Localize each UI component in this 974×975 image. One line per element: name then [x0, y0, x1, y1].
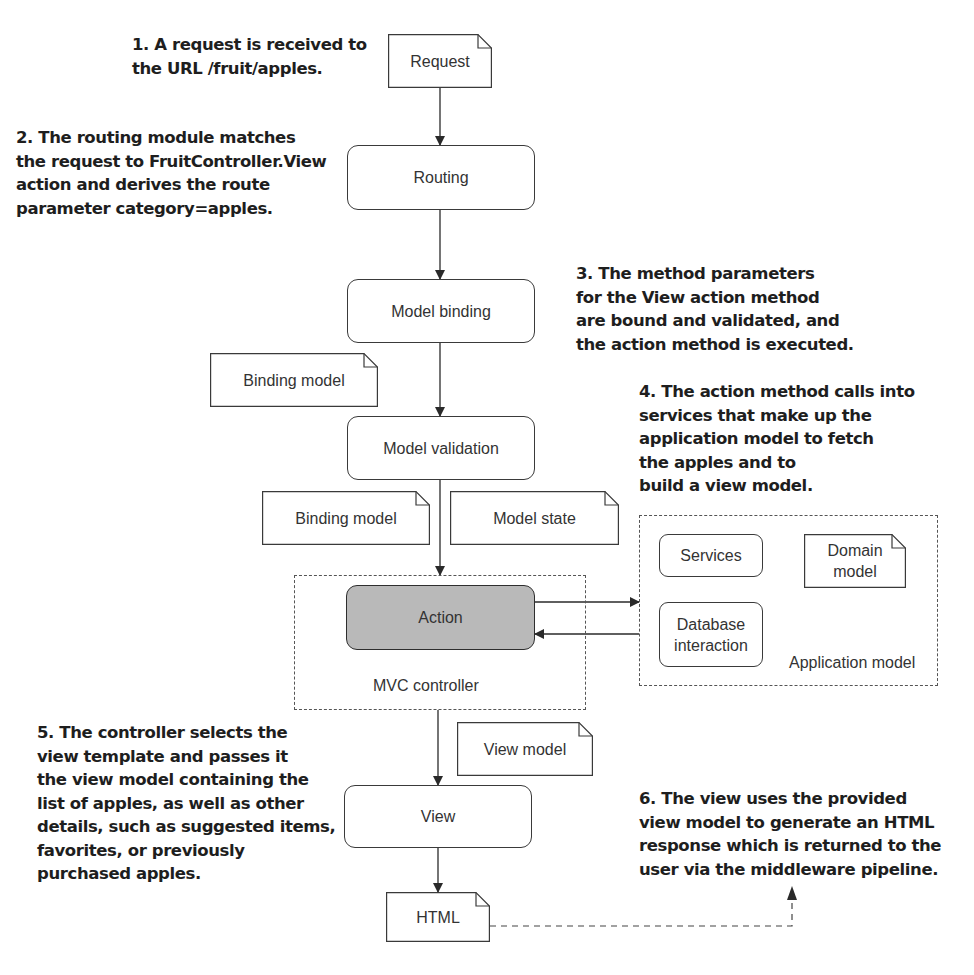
model-state-label: Model state: [493, 508, 576, 529]
model-validation-step: Model validation: [347, 416, 535, 480]
services-label: Services: [680, 545, 741, 566]
request-label: Request: [410, 51, 470, 72]
diagram-canvas: 1. A request is received to the URL /fru…: [0, 0, 974, 975]
model-binding-step: Model binding: [347, 279, 535, 343]
model-binding-label: Model binding: [391, 301, 491, 322]
database-interaction-label: Database interaction: [674, 614, 748, 656]
mvc-controller-label: MVC controller: [373, 677, 479, 695]
annotation-step-6: 6. The view uses the provided view model…: [639, 787, 941, 881]
annotation-step-1: 1. A request is received to the URL /fru…: [132, 33, 367, 80]
binding-model-document-1: Binding model: [210, 353, 378, 407]
model-state-document: Model state: [450, 491, 619, 545]
html-label: HTML: [416, 907, 460, 928]
annotation-step-4: 4. The action method calls into services…: [639, 380, 915, 498]
annotation-step-3: 3. The method parameters for the View ac…: [576, 262, 854, 356]
html-document: HTML: [386, 892, 490, 942]
action-label: Action: [418, 607, 462, 628]
domain-model-document: Domain model: [804, 534, 906, 588]
action-step: Action: [346, 585, 535, 650]
application-model-label: Application model: [789, 654, 915, 672]
binding-model-label-2: Binding model: [295, 508, 396, 529]
binding-model-document-2: Binding model: [262, 491, 430, 545]
domain-model-label: Domain model: [827, 540, 882, 582]
view-model-label: View model: [484, 739, 566, 760]
view-model-document: View model: [457, 722, 593, 776]
model-validation-label: Model validation: [383, 438, 499, 459]
binding-model-label-1: Binding model: [243, 370, 344, 391]
services-component: Services: [659, 534, 763, 577]
routing-label: Routing: [413, 167, 468, 188]
annotation-step-5: 5. The controller selects the view templ…: [37, 721, 335, 886]
view-step: View: [344, 785, 532, 848]
database-interaction-component: Database interaction: [659, 602, 763, 667]
routing-step: Routing: [347, 145, 535, 210]
annotation-step-2: 2. The routing module matches the reques…: [16, 126, 326, 220]
request-document: Request: [388, 34, 492, 88]
view-label: View: [421, 806, 455, 827]
